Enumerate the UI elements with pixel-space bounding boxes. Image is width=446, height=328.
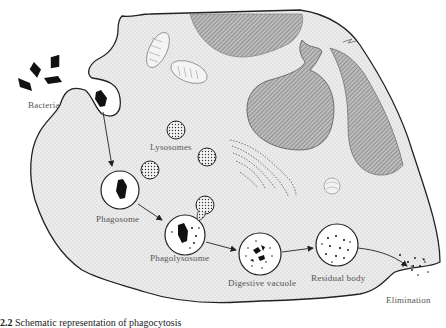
caption-text: Schematic representation of phagocytosis [15, 317, 181, 328]
label-elimination: Elimination [386, 295, 431, 305]
digestive-vacuole [239, 233, 281, 275]
figure-caption: 2.2 Schematic representation of phagocyt… [0, 317, 181, 328]
label-phagolysosome: Phagolysosome [150, 253, 209, 263]
lysosome-1 [167, 121, 185, 139]
label-lysosomes: Lysosomes [150, 142, 192, 152]
label-digestive-vacuole: Digestive vacuole [228, 278, 296, 288]
lysosome-3 [198, 148, 216, 166]
residual-body [316, 224, 358, 266]
label-phagosome: Phagosome [96, 214, 139, 224]
label-bacteria: Bacteria [28, 100, 60, 110]
bacteria-cluster [18, 53, 62, 91]
bacterium-engulfing [95, 90, 107, 107]
label-residual-body: Residual body [311, 273, 365, 283]
caption-number: 2.2 [0, 317, 13, 328]
mitochondrion-small [324, 178, 340, 194]
lysosome-2 [141, 161, 159, 179]
